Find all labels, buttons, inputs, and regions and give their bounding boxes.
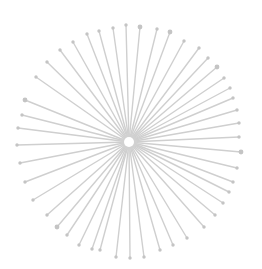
leaf-node [98, 248, 101, 251]
leaf-node [138, 25, 143, 30]
leaf-node [23, 180, 26, 183]
leaf-node [31, 198, 34, 201]
leaf-node [231, 180, 234, 183]
leaf-node [18, 161, 21, 164]
edge-line [47, 62, 129, 142]
leaf-node [114, 255, 117, 258]
leaf-node [20, 113, 23, 116]
leaf-node [55, 225, 60, 230]
leaf-node [71, 40, 74, 43]
edge-line [129, 142, 130, 258]
hub-node-group [121, 134, 137, 150]
leaf-node [197, 46, 200, 49]
leaf-node [237, 135, 240, 138]
edge-line [129, 142, 204, 227]
leaf-node [228, 86, 231, 89]
leaf-node [237, 121, 240, 124]
edge-line [25, 142, 129, 182]
edge-line [99, 31, 129, 142]
leaf-node [239, 150, 244, 155]
hub-node [124, 137, 134, 147]
leaf-node [142, 255, 145, 258]
edge-line [129, 142, 160, 250]
leaf-node [128, 256, 131, 259]
leaf-node [222, 76, 225, 79]
leaf-node [45, 60, 48, 63]
leaf-node [221, 201, 224, 204]
edge-line [129, 29, 157, 142]
edge-line [87, 34, 129, 142]
leaf-node [171, 243, 174, 246]
leaf-node [65, 233, 68, 236]
leaf-node [158, 248, 161, 251]
leaf-node [90, 247, 93, 250]
leaf-node [34, 75, 37, 78]
leaf-node [23, 98, 28, 103]
leaf-node [206, 56, 209, 59]
radial-network-diagram [0, 0, 262, 269]
leaf-node [168, 30, 173, 35]
leaf-node [111, 26, 114, 29]
leaf-node [185, 236, 188, 239]
leaf-node [45, 213, 48, 216]
leaf-node [235, 166, 238, 169]
leaf-node [227, 190, 230, 193]
edge-line [129, 78, 224, 142]
leaf-node [182, 39, 185, 42]
leaf-node [231, 96, 234, 99]
leaf-node [15, 143, 18, 146]
leaf-node [235, 108, 238, 111]
edge-line [129, 32, 170, 142]
leaf-node [215, 65, 220, 70]
leaf-node [213, 213, 216, 216]
leaf-node [97, 29, 100, 32]
edge-line [129, 67, 217, 142]
leaf-node [202, 225, 205, 228]
leaf-node [124, 23, 127, 26]
leaf-node [85, 32, 88, 35]
leaf-node [58, 48, 61, 51]
leaf-node [77, 243, 80, 246]
edge-line [73, 42, 129, 142]
leaf-node [155, 27, 158, 30]
edge-line [22, 115, 129, 142]
leaf-node [16, 126, 19, 129]
